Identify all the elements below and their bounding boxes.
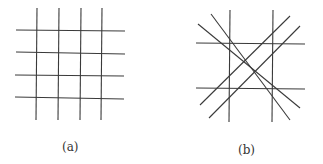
line-7 [200,16,290,105]
line-1 [229,10,230,122]
line-1 [36,8,37,120]
line-2 [272,10,273,122]
line-3 [80,8,81,120]
line-5 [198,24,300,108]
panel-a-grid [15,8,125,120]
line-4 [101,8,102,120]
line-2 [58,8,59,120]
line-5 [16,30,125,31]
line-arrangement-diagram [0,0,323,164]
caption-a: (a) [62,140,79,154]
line-8 [209,26,300,118]
panel-b-crossing-lines [196,10,305,122]
line-3 [196,43,305,44]
line-7 [15,75,124,76]
line-8 [15,97,124,99]
line-4 [196,88,305,89]
caption-b: (b) [238,143,255,157]
line-6 [16,52,125,54]
